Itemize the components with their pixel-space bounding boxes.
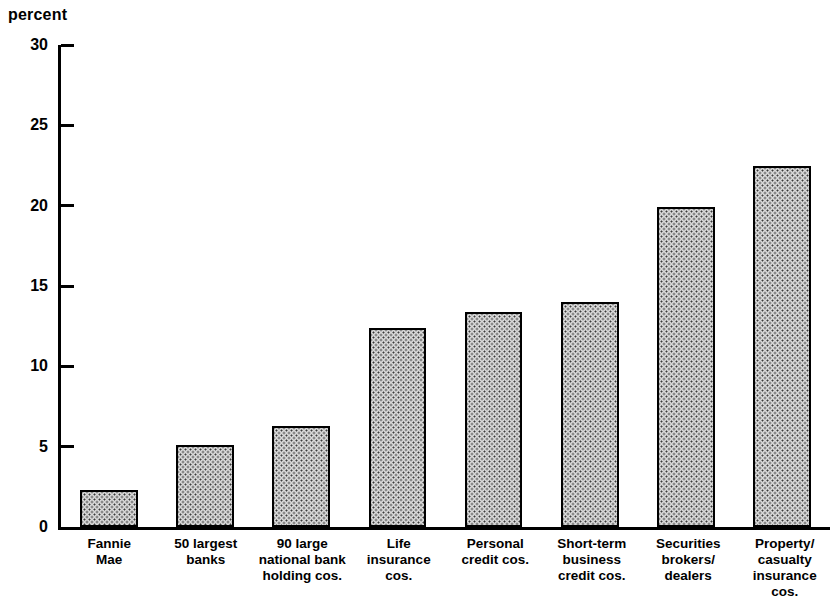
bar-series <box>61 45 830 527</box>
y-axis-tick-label: 15 <box>10 277 48 295</box>
bar <box>753 166 811 528</box>
x-axis-label: Securities brokers/ dealers <box>640 536 737 600</box>
bar-chart: percent 302520151050 Fannie Mae50 larges… <box>0 0 830 609</box>
bar <box>80 490 138 527</box>
bar-slot <box>61 45 157 527</box>
bar <box>272 426 330 527</box>
y-axis-tick-label: 10 <box>10 357 48 375</box>
bar <box>176 445 234 527</box>
bar-slot <box>446 45 542 527</box>
bar <box>465 312 523 527</box>
bar-slot <box>349 45 445 527</box>
bar <box>657 207 715 527</box>
y-axis-tick-label: 30 <box>10 36 48 54</box>
bar-slot <box>734 45 830 527</box>
bar <box>369 328 427 527</box>
bar-slot <box>542 45 638 527</box>
x-axis-label: Property/ casualty insurance cos. <box>737 536 830 600</box>
x-axis-label: 90 large national bank holding cos. <box>254 536 351 600</box>
y-axis-tick-label: 0 <box>10 518 48 536</box>
y-axis-tick-label: 20 <box>10 197 48 215</box>
y-axis-tick-label: 25 <box>10 116 48 134</box>
bar-slot <box>638 45 734 527</box>
x-axis-label: Fannie Mae <box>61 536 158 600</box>
plot-area: 302520151050 <box>58 45 830 530</box>
y-axis-unit-label: percent <box>8 6 67 24</box>
bar-slot <box>157 45 253 527</box>
y-axis-tick-label: 5 <box>10 438 48 456</box>
bar-slot <box>253 45 349 527</box>
x-axis-label: Personal credit cos. <box>447 536 544 600</box>
x-axis-label: Life insurance cos. <box>351 536 448 600</box>
x-axis-line <box>58 527 830 530</box>
x-axis-label: 50 largest banks <box>158 536 255 600</box>
bar <box>561 302 619 527</box>
x-axis-labels: Fannie Mae50 largest banks90 large natio… <box>61 536 830 600</box>
x-axis-label: Short-term business credit cos. <box>544 536 641 600</box>
